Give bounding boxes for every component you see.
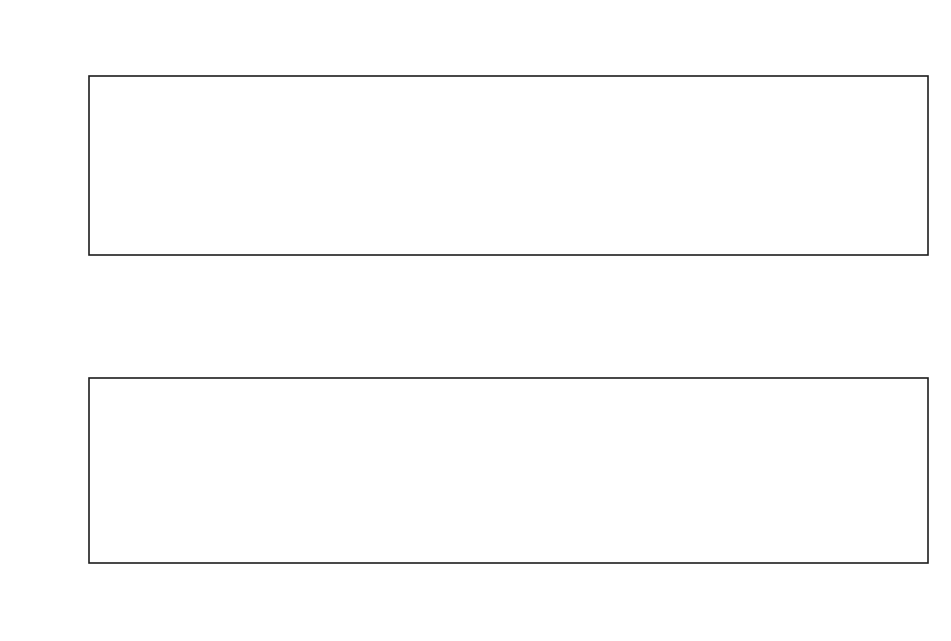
figure-background xyxy=(0,0,951,641)
figure-canvas xyxy=(0,0,951,641)
